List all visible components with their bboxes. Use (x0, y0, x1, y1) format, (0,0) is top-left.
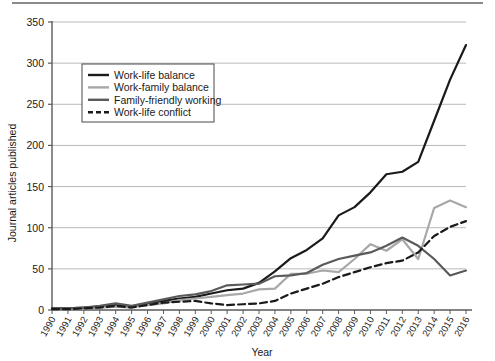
chart-legend: Work-life balanceWork-family balanceFami… (82, 64, 222, 122)
x-tick-label: 1997 (149, 315, 169, 339)
y-tick-label: 200 (26, 139, 44, 151)
x-tick-label: 2003 (245, 315, 265, 339)
x-tick-label: 2007 (308, 315, 328, 339)
x-tick-label: 1998 (165, 315, 185, 339)
x-tick-label: 1999 (181, 315, 201, 339)
x-tick-label: 2014 (420, 315, 440, 339)
x-tick-label: 2016 (452, 315, 472, 339)
series-line-1 (52, 201, 466, 310)
x-tick-label: 1993 (85, 315, 105, 339)
y-axis-title: Journal articles published (6, 124, 18, 243)
x-tick-label: 2005 (276, 315, 296, 339)
x-tick-label: 2013 (404, 315, 424, 339)
x-axis-ticks-group: 1990199119921993199419951996199719981999… (38, 310, 472, 338)
x-tick-label: 2006 (292, 315, 312, 339)
gridlines-group (52, 22, 466, 269)
x-tick-label: 2012 (388, 315, 408, 339)
x-tick-label: 2000 (197, 315, 217, 339)
chart-figure: 050100150200250300350 199019911992199319… (0, 0, 495, 361)
series-line-3 (52, 221, 466, 309)
x-tick-label: 1994 (101, 315, 121, 339)
legend-label-0: Work-life balance (114, 69, 195, 81)
x-tick-label: 2015 (436, 315, 456, 339)
legend-label-1: Work-family balance (114, 81, 209, 93)
x-tick-label: 2010 (356, 315, 376, 339)
x-tick-label: 2008 (324, 315, 344, 339)
y-tick-label: 350 (26, 16, 44, 28)
legend-label-3: Work-life conflict (114, 106, 191, 118)
x-tick-label: 1996 (133, 315, 153, 339)
y-tick-label: 250 (26, 98, 44, 110)
y-tick-label: 50 (32, 263, 44, 275)
x-tick-label: 1991 (54, 315, 74, 339)
x-tick-label: 2009 (340, 315, 360, 339)
series-line-2 (52, 238, 466, 310)
line-chart-svg: 050100150200250300350 199019911992199319… (0, 0, 495, 361)
x-tick-label: 1995 (117, 315, 137, 339)
x-axis-title: Year (251, 346, 273, 358)
y-tick-label: 300 (26, 57, 44, 69)
x-tick-label: 2004 (261, 315, 281, 339)
y-tick-label: 100 (26, 222, 44, 234)
legend-label-2: Family-friendly working (114, 94, 222, 106)
x-tick-label: 1990 (38, 315, 58, 339)
y-tick-label: 0 (38, 304, 44, 316)
y-tick-label: 150 (26, 181, 44, 193)
x-tick-label: 2001 (213, 315, 233, 339)
y-axis-ticks-group: 050100150200250300350 (26, 16, 52, 316)
x-tick-label: 2002 (229, 315, 249, 339)
x-tick-label: 1992 (69, 315, 89, 339)
